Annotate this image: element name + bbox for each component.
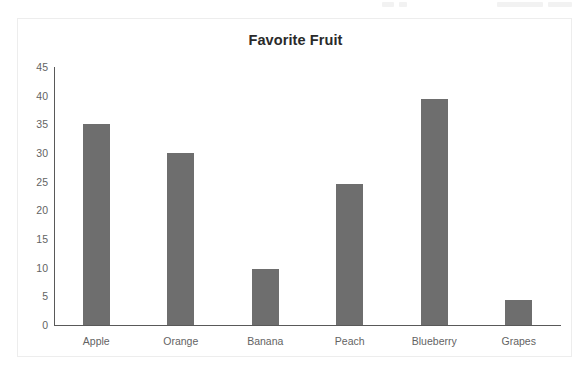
x-axis-label-banana: Banana: [247, 335, 283, 347]
bar-peach: [336, 184, 363, 325]
y-axis-tick-label: 30: [36, 147, 48, 159]
bar-grapes: [505, 300, 532, 325]
toolbar-ghost-icon: [382, 2, 394, 7]
y-axis-tick-label: 40: [36, 90, 48, 102]
y-axis-tick-label: 5: [42, 290, 48, 302]
y-axis-tick-label: 45: [36, 61, 48, 73]
y-axis-tick-label: 10: [36, 262, 48, 274]
y-axis-tick-label: 20: [36, 204, 48, 216]
plot-area: 051015202530354045 AppleOrangeBananaPeac…: [54, 59, 563, 334]
toolbar-ghost-label: [497, 2, 543, 7]
bar-blueberry: [421, 99, 448, 325]
x-axis-label-grapes: Grapes: [502, 335, 536, 347]
y-axis-tick-label: 35: [36, 118, 48, 130]
bar-apple: [83, 124, 110, 325]
x-axis-label-peach: Peach: [335, 335, 365, 347]
x-axis-label-apple: Apple: [83, 335, 110, 347]
y-axis-tick-label: 0: [42, 319, 48, 331]
toolbar-ghost-icon: [399, 2, 407, 7]
chart-title: Favorite Fruit: [18, 32, 573, 48]
chart-container: Favorite Fruit 051015202530354045 AppleO…: [17, 18, 572, 357]
bar-banana: [252, 269, 279, 325]
x-axis-label-blueberry: Blueberry: [412, 335, 457, 347]
toolbar-ghost-label: [548, 2, 572, 7]
bar-orange: [167, 153, 194, 325]
y-axis-line: [54, 67, 55, 326]
clipped-toolbar-strip: [0, 0, 588, 12]
y-axis-tick-label: 15: [36, 233, 48, 245]
x-axis-line: [54, 325, 561, 326]
y-axis-tick-label: 25: [36, 176, 48, 188]
x-axis-label-orange: Orange: [163, 335, 198, 347]
